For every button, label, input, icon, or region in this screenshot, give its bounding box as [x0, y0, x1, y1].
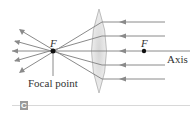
axis-label: Axis: [167, 54, 188, 65]
focal-point-left: [51, 49, 56, 54]
panel-tag: C: [20, 101, 28, 110]
focal-label-right: F: [141, 38, 148, 49]
focal-point-right: [142, 49, 146, 53]
panel-divider: [12, 105, 190, 106]
focal-point-label: Focal point: [28, 78, 78, 89]
focal-label-left: F: [50, 38, 57, 49]
